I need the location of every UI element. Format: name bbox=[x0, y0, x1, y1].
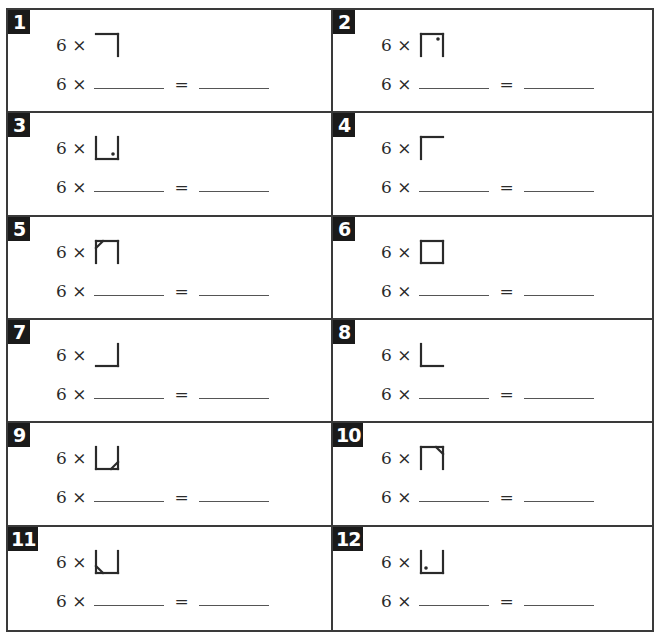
problem-number-badge: 3 bbox=[8, 113, 30, 137]
multiplier: 6 bbox=[56, 552, 67, 572]
equals-sign: = bbox=[172, 591, 190, 611]
multiplier: 6 bbox=[381, 281, 392, 301]
times-sign: × bbox=[72, 35, 86, 55]
code-glyph-icon bbox=[419, 135, 445, 161]
multiplier: 6 bbox=[381, 487, 392, 507]
problem-cell-2: 2 6 × 6 × = bbox=[333, 10, 652, 113]
problem-cell-3: 3 6 × 6 × = bbox=[8, 113, 333, 216]
times-sign: × bbox=[397, 591, 411, 611]
problem-prompt: 6 × bbox=[56, 340, 120, 370]
times-sign: × bbox=[72, 177, 86, 197]
worksheet-grid: 1 6 × 6 × = 2 6 × 6 × = bbox=[6, 8, 654, 632]
problem-prompt: 6 × bbox=[381, 340, 445, 370]
code-glyph-icon bbox=[94, 32, 120, 58]
problem-cell-9: 9 6 × 6 × = bbox=[8, 423, 333, 526]
problem-cell-12: 12 6 × 6 × = bbox=[333, 527, 652, 630]
equals-sign: = bbox=[172, 281, 190, 301]
factor-blank[interactable] bbox=[419, 500, 489, 502]
problem-number-badge: 9 bbox=[8, 423, 30, 447]
factor-blank[interactable] bbox=[94, 604, 164, 606]
problem-number-badge: 7 bbox=[8, 320, 30, 344]
factor-blank[interactable] bbox=[94, 500, 164, 502]
code-glyph-icon bbox=[419, 32, 445, 58]
answer-line: 6 × = bbox=[56, 378, 277, 404]
problem-number-badge: 12 bbox=[333, 527, 363, 551]
times-sign: × bbox=[72, 448, 86, 468]
code-glyph-icon bbox=[94, 445, 120, 471]
answer-line: 6 × = bbox=[381, 481, 602, 507]
equals-sign: = bbox=[172, 384, 190, 404]
times-sign: × bbox=[397, 177, 411, 197]
problem-number-badge: 5 bbox=[8, 217, 30, 241]
equals-sign: = bbox=[497, 281, 515, 301]
code-glyph-icon bbox=[94, 549, 120, 575]
product-blank[interactable] bbox=[199, 500, 269, 502]
times-sign: × bbox=[72, 384, 86, 404]
times-sign: × bbox=[72, 138, 86, 158]
problem-prompt: 6 × bbox=[56, 133, 120, 163]
equals-sign: = bbox=[497, 487, 515, 507]
times-sign: × bbox=[397, 487, 411, 507]
answer-line: 6 × = bbox=[56, 275, 277, 301]
multiplier: 6 bbox=[56, 384, 67, 404]
times-sign: × bbox=[72, 242, 86, 262]
problem-prompt: 6 × bbox=[381, 443, 445, 473]
times-sign: × bbox=[397, 138, 411, 158]
multiplier: 6 bbox=[56, 35, 67, 55]
factor-blank[interactable] bbox=[419, 190, 489, 192]
product-blank[interactable] bbox=[524, 294, 594, 296]
factor-blank[interactable] bbox=[94, 87, 164, 89]
factor-blank[interactable] bbox=[94, 294, 164, 296]
times-sign: × bbox=[72, 74, 86, 94]
problem-prompt: 6 × bbox=[56, 547, 120, 577]
product-blank[interactable] bbox=[524, 604, 594, 606]
multiplier: 6 bbox=[381, 177, 392, 197]
times-sign: × bbox=[397, 74, 411, 94]
times-sign: × bbox=[72, 281, 86, 301]
product-blank[interactable] bbox=[199, 604, 269, 606]
product-blank[interactable] bbox=[199, 87, 269, 89]
code-glyph-icon bbox=[94, 135, 120, 161]
equals-sign: = bbox=[172, 177, 190, 197]
equals-sign: = bbox=[172, 487, 190, 507]
multiplier: 6 bbox=[56, 591, 67, 611]
code-glyph-icon bbox=[94, 239, 120, 265]
factor-blank[interactable] bbox=[94, 190, 164, 192]
multiplier: 6 bbox=[381, 35, 392, 55]
factor-blank[interactable] bbox=[419, 294, 489, 296]
product-blank[interactable] bbox=[524, 397, 594, 399]
answer-line: 6 × = bbox=[56, 481, 277, 507]
code-glyph-icon bbox=[419, 445, 445, 471]
equals-sign: = bbox=[497, 74, 515, 94]
multiplier: 6 bbox=[381, 591, 392, 611]
times-sign: × bbox=[397, 384, 411, 404]
multiplier: 6 bbox=[56, 74, 67, 94]
product-blank[interactable] bbox=[524, 190, 594, 192]
product-blank[interactable] bbox=[199, 294, 269, 296]
multiplier: 6 bbox=[56, 138, 67, 158]
times-sign: × bbox=[397, 552, 411, 572]
code-glyph-icon bbox=[419, 549, 445, 575]
answer-line: 6 × = bbox=[381, 275, 602, 301]
problem-number-badge: 8 bbox=[333, 320, 355, 344]
multiplier: 6 bbox=[56, 345, 67, 365]
factor-blank[interactable] bbox=[419, 397, 489, 399]
problem-number-badge: 6 bbox=[333, 217, 355, 241]
multiplier: 6 bbox=[381, 552, 392, 572]
problem-cell-1: 1 6 × 6 × = bbox=[8, 10, 333, 113]
product-blank[interactable] bbox=[524, 500, 594, 502]
problem-prompt: 6 × bbox=[56, 30, 120, 60]
problem-number-badge: 2 bbox=[333, 10, 355, 34]
multiplier: 6 bbox=[381, 138, 392, 158]
code-glyph-icon bbox=[94, 342, 120, 368]
product-blank[interactable] bbox=[199, 190, 269, 192]
factor-blank[interactable] bbox=[419, 87, 489, 89]
times-sign: × bbox=[397, 242, 411, 262]
problem-number-badge: 4 bbox=[333, 113, 355, 137]
equals-sign: = bbox=[172, 74, 190, 94]
equals-sign: = bbox=[497, 384, 515, 404]
factor-blank[interactable] bbox=[419, 604, 489, 606]
factor-blank[interactable] bbox=[94, 397, 164, 399]
product-blank[interactable] bbox=[524, 87, 594, 89]
product-blank[interactable] bbox=[199, 397, 269, 399]
